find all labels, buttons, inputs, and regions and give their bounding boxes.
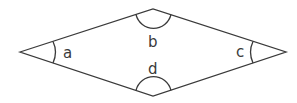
angle-b-label: b xyxy=(148,33,158,51)
angle-d-arc xyxy=(136,77,171,91)
angle-b-arc xyxy=(136,15,171,29)
angle-d-label: d xyxy=(148,60,158,78)
rhombus-outline xyxy=(20,9,286,96)
angle-a-label: a xyxy=(63,44,72,62)
angle-c-arc xyxy=(251,42,254,64)
angle-c-label: c xyxy=(236,43,244,61)
rhombus-diagram: a b c d xyxy=(0,0,297,103)
angle-a-arc xyxy=(53,42,56,64)
